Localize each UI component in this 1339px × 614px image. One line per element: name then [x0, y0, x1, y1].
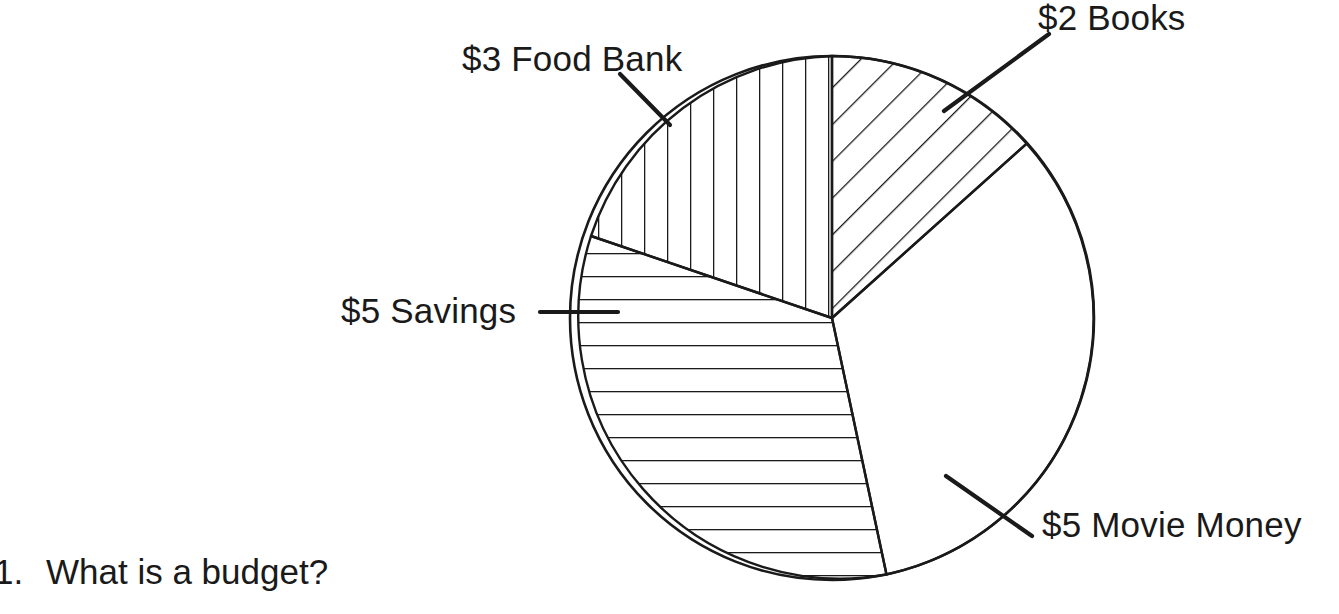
budget-worksheet: $2 Books $3 Food Bank $5 Savings $5 Movi…: [0, 0, 1339, 614]
worksheet-question-1: 1. What is a budget?: [0, 552, 328, 592]
books-leader-line: [944, 34, 1049, 111]
question-number: 1.: [0, 552, 46, 592]
pie-label-books: $2 Books: [1038, 0, 1186, 35]
pie-label-food-bank: $3 Food Bank: [462, 41, 682, 76]
pie-label-movie-money: $5 Movie Money: [1042, 507, 1302, 542]
food-bank-leader-line: [620, 74, 670, 125]
pie-label-savings: $5 Savings: [341, 293, 516, 328]
question-text: What is a budget?: [46, 552, 328, 592]
